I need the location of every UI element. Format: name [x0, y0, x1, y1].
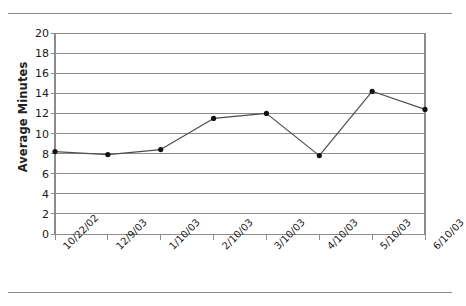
data-point-3[interactable]	[211, 116, 216, 121]
y-tick-label-10: 10	[35, 127, 49, 140]
y-tick-label-20: 20	[35, 27, 49, 40]
y-tick-label-2: 2	[42, 207, 49, 220]
y-tick-label-16: 16	[35, 67, 49, 80]
data-point-7[interactable]	[422, 107, 427, 112]
chart-canvas	[55, 33, 425, 234]
line-chart-figure: Average Minutes 02468101214161820 10/22/…	[0, 18, 461, 290]
data-point-2[interactable]	[158, 147, 163, 152]
y-axis-title: Average Minutes	[16, 52, 30, 182]
data-point-6[interactable]	[370, 89, 375, 94]
data-point-0[interactable]	[52, 149, 57, 154]
y-tick-label-14: 14	[35, 87, 49, 100]
x-tick-label-7: 6/10/03	[431, 217, 466, 252]
data-point-4[interactable]	[264, 111, 269, 116]
data-point-5[interactable]	[317, 153, 322, 158]
plot-area: 02468101214161820 10/22/0212/9/031/10/03…	[55, 33, 425, 234]
bottom-divider-rule	[8, 292, 452, 293]
y-tick-label-18: 18	[35, 47, 49, 60]
y-tick-label-0: 0	[42, 228, 49, 241]
y-tick-label-12: 12	[35, 107, 49, 120]
y-tick-label-4: 4	[42, 187, 49, 200]
y-tick-label-8: 8	[42, 147, 49, 160]
data-point-1[interactable]	[105, 152, 110, 157]
top-divider-rule	[8, 13, 452, 14]
data-line	[55, 91, 425, 155]
y-tick-label-6: 6	[42, 167, 49, 180]
